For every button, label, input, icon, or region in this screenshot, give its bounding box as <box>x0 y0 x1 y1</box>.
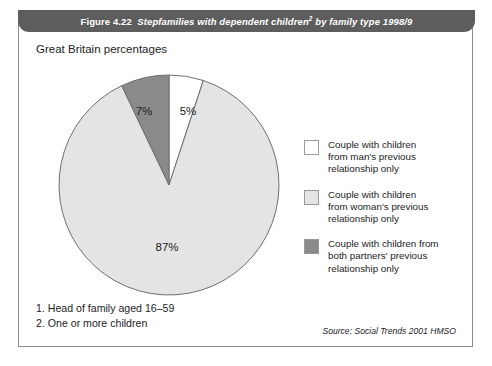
footnote-2: 2. One or more children <box>36 316 174 331</box>
legend-line-1: Couple with children <box>328 189 428 201</box>
legend-label-man-only: Couple with children from man's previous… <box>328 139 416 176</box>
legend-swatch-both-partners <box>304 239 319 254</box>
legend-line-2: from man's previous <box>328 151 416 163</box>
legend-line-1: Couple with children <box>328 139 416 151</box>
legend-item-man-only[interactable]: Couple with children from man's previous… <box>304 139 469 176</box>
legend-line-2: from woman's previous <box>328 201 428 213</box>
footnote-1: 1. Head of family aged 16–59 <box>36 301 174 316</box>
legend-label-both-partners: Couple with children from both partners'… <box>328 238 439 275</box>
pie-label-7: 7% <box>136 105 153 117</box>
legend-label-woman-only: Couple with children from woman's previo… <box>328 189 428 226</box>
pie-label-87: 87% <box>155 241 178 253</box>
figure-title: Figure 4.22 Stepfamilies with dependent … <box>81 15 413 27</box>
footnotes: 1. Head of family aged 16–59 2. One or m… <box>36 301 174 331</box>
legend-line-3: relationship only <box>328 213 428 225</box>
source-note: Source: Social Trends 2001 HMSO <box>322 326 456 336</box>
legend-swatch-woman-only <box>304 190 319 205</box>
figure-title-tail: by family type 1998/9 <box>313 16 413 27</box>
figure-header-bar: Figure 4.22 Stepfamilies with dependent … <box>18 10 475 32</box>
pie-label-5: 5% <box>180 105 197 117</box>
pie-chart: 5% 7% 87% <box>57 73 281 297</box>
figure-title-main: Stepfamilies with dependent children <box>137 16 308 27</box>
legend-line-1: Couple with children from <box>328 238 439 250</box>
legend-swatch-man-only <box>304 140 319 155</box>
figure-card: Figure 4.22 Stepfamilies with dependent … <box>18 10 473 347</box>
legend-line-3: relationship only <box>328 163 416 175</box>
pie-chart-svg: 5% 7% 87% <box>57 73 281 297</box>
figure-number: Figure 4.22 <box>81 16 132 27</box>
legend-line-3: relationship only <box>328 263 439 275</box>
legend-item-woman-only[interactable]: Couple with children from woman's previo… <box>304 189 469 226</box>
legend-item-both-partners[interactable]: Couple with children from both partners'… <box>304 238 469 275</box>
legend-line-2: both partners' previous <box>328 250 439 262</box>
chart-subtitle: Great Britain percentages <box>36 43 167 55</box>
chart-legend: Couple with children from man's previous… <box>304 139 469 288</box>
